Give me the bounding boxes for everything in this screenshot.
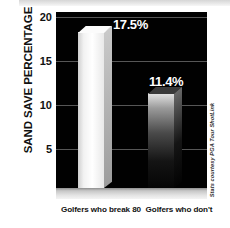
y-tick-label-5: 5 [24, 144, 52, 155]
sand-save-percentage-bar-chart: SAND SAVE PERCENTAGE 20 15 10 5 17.5% 11… [0, 0, 230, 228]
source-credit: Stats courtesy PGA Tour ShotLink [209, 90, 215, 210]
x-category-label-break-80: Golfers who break 80 [56, 205, 146, 214]
chart-floor-strip [56, 188, 207, 199]
x-category-label-dont: Golfers who don't [143, 205, 215, 214]
bar-2-side-face [174, 87, 182, 188]
plot-area: 17.5% 11.4% [56, 12, 207, 188]
bar-golfers-who-break-80[interactable] [78, 32, 104, 188]
bar-golfers-who-dont[interactable] [148, 93, 174, 188]
bar-2-front-face [148, 93, 174, 188]
y-axis-tick-labels: 20 15 10 5 [24, 0, 52, 228]
y-tick-label-10: 10 [24, 100, 52, 111]
y-tick-label-20: 20 [24, 12, 52, 23]
y-tick-label-15: 15 [24, 56, 52, 67]
value-label-bar-1: 17.5% [113, 17, 148, 32]
value-label-bar-2: 11.4% [149, 74, 183, 89]
bar-1-side-face [104, 26, 112, 188]
bar-1-front-face [78, 32, 104, 188]
